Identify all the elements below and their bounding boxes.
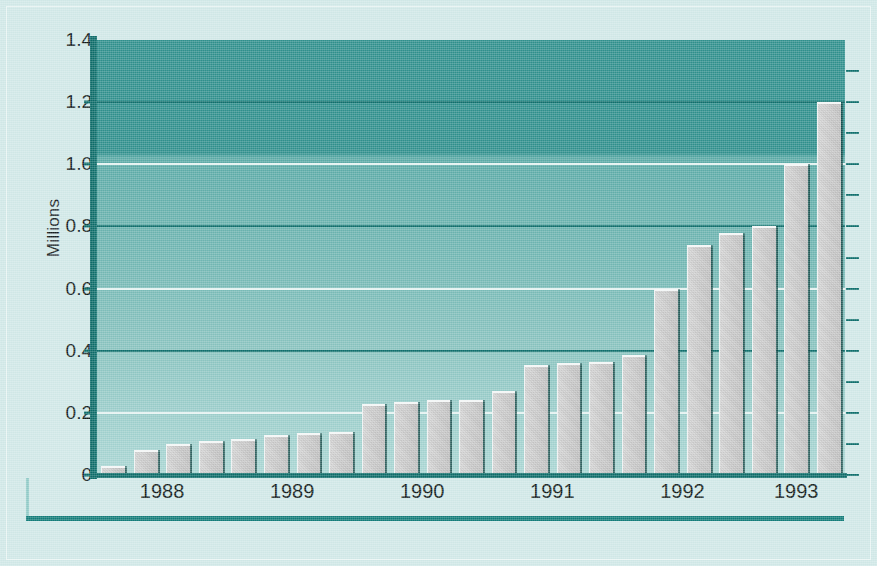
bar	[264, 435, 288, 475]
y-axis-tick-mark-right	[846, 225, 859, 227]
y-axis-tick-mark-right	[846, 101, 859, 103]
bar	[524, 365, 548, 475]
bar	[654, 289, 678, 475]
bar	[557, 363, 581, 475]
y-axis-tick-mark	[84, 411, 96, 414]
y-axis-tick-label: 1.4	[66, 29, 92, 51]
x-axis-year-label: 1991	[530, 480, 575, 503]
bar	[427, 400, 451, 475]
plot-area	[97, 40, 845, 475]
y-axis-tick-mark-right	[846, 412, 859, 414]
bar	[622, 355, 646, 475]
y-axis-tick-mark-right	[846, 288, 859, 290]
y-axis-tick-mark-right	[846, 474, 859, 476]
bar	[492, 391, 516, 475]
x-axis-year-label: 1989	[270, 480, 315, 503]
bar	[459, 400, 483, 475]
y-axis-minor-tick-right	[846, 257, 859, 259]
bar	[719, 233, 743, 475]
y-axis-minor-tick-right	[846, 70, 859, 72]
bottom-rule	[26, 516, 844, 521]
y-axis-minor-tick-right	[846, 443, 859, 445]
y-axis-tick-mark-right	[846, 350, 859, 352]
bar	[687, 245, 711, 475]
x-axis-year-label: 1988	[140, 480, 185, 503]
y-axis-tick-labels: 00.20.40.60.81.01.21.4	[20, 0, 92, 566]
bar	[329, 432, 353, 476]
bar	[752, 226, 776, 475]
bar	[362, 404, 386, 475]
bar	[297, 433, 321, 475]
bar	[199, 441, 223, 475]
y-axis-tick-mark	[84, 474, 96, 477]
y-axis-tick-mark	[84, 349, 96, 352]
y-axis-tick-mark	[84, 101, 96, 104]
y-axis-tick-mark-right	[846, 163, 859, 165]
x-axis-year-label: 1990	[400, 480, 445, 503]
y-axis-minor-tick-right	[846, 132, 859, 134]
year-band-left-rule	[26, 478, 29, 518]
y-axis-minor-tick-right	[846, 194, 859, 196]
x-axis-year-label: 1992	[660, 480, 705, 503]
gridline	[97, 163, 845, 165]
bar	[166, 444, 190, 475]
bar	[394, 402, 418, 475]
gridline	[97, 225, 845, 227]
y-axis-tick-mark	[84, 225, 96, 228]
bar	[784, 164, 808, 475]
y-axis-tick-mark	[84, 287, 96, 290]
x-axis-year-label: 1993	[774, 480, 819, 503]
bar	[231, 439, 255, 475]
y-axis-minor-tick-right	[846, 381, 859, 383]
bar	[817, 102, 841, 475]
gridline	[97, 101, 845, 103]
chart-figure: Millions 00.20.40.60.81.01.21.4 19881989…	[0, 0, 877, 566]
x-axis-year-labels: 198819891990199119921993	[97, 478, 845, 516]
bar	[589, 362, 613, 475]
y-axis-minor-tick-right	[846, 319, 859, 321]
bar	[134, 450, 158, 475]
y-axis-tick-mark	[84, 163, 96, 166]
